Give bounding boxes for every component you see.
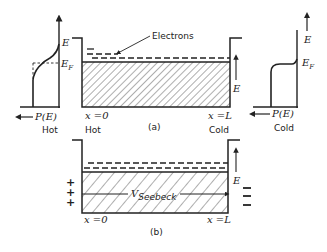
energy-label: E (303, 34, 312, 45)
xL-label: x =L (207, 214, 231, 225)
panel-b-label: (b) (150, 227, 163, 237)
hot-distribution-plot: E EF P(E) Hot (18, 18, 74, 135)
probability-label: P(E) (271, 108, 294, 119)
xL-label: x =L (208, 110, 232, 121)
cold-distribution-plot: E EF P(E) Cold (252, 15, 315, 133)
x0-label: x =0 (84, 214, 108, 225)
negative-charges (243, 188, 251, 205)
energy-label: E (61, 37, 70, 48)
electrons-label: Electrons (152, 31, 194, 41)
fermi-level-label: EF (60, 58, 74, 72)
svg-text:+: + (66, 196, 75, 209)
hot-caption: Hot (42, 125, 58, 135)
energy-label: E (232, 175, 241, 186)
panel-b: VSeebeck E + + + x =0 x =L (b) (66, 140, 251, 237)
filled-states-hatch (82, 62, 230, 107)
probability-label: P(E) (34, 111, 57, 122)
panel-a: Electrons E x =0 Hot (a) x =L Cold (72, 31, 242, 135)
panel-a-label: (a) (148, 122, 161, 132)
positive-charges: + + + (66, 176, 75, 209)
cold-side-label: Cold (209, 125, 229, 135)
hot-occupancy-curve (33, 44, 59, 107)
seebeck-diagram: E EF P(E) Hot Electrons E x =0 Hot (a) x… (0, 0, 327, 252)
x0-label: x =0 (85, 110, 109, 121)
energy-label: E (232, 83, 241, 94)
cold-occupancy-curve (271, 59, 297, 107)
fermi-level-label: EF (301, 57, 315, 71)
hot-side-label: Hot (85, 125, 101, 135)
electrons-pointer-arrow-icon (118, 36, 150, 53)
cold-caption: Cold (274, 123, 294, 133)
